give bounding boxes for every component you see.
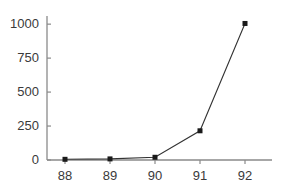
data-point-marker xyxy=(108,156,113,161)
data-point-marker xyxy=(198,128,203,133)
x-axis-tick-label: 91 xyxy=(180,169,220,182)
x-axis-tick-label: 88 xyxy=(45,169,85,182)
axes-group xyxy=(47,16,272,160)
data-point-marker xyxy=(243,21,248,26)
x-axis-tick-label: 90 xyxy=(135,169,175,182)
y-axis-tick-label: 0 xyxy=(0,153,39,166)
y-axis-tick-label: 250 xyxy=(0,119,39,132)
line-chart: 02505007501000 8889909192 xyxy=(0,0,284,186)
y-axis-tick-label: 500 xyxy=(0,85,39,98)
data-point-markers xyxy=(63,21,248,162)
y-axis-tick-label: 1000 xyxy=(0,17,39,30)
plot-area xyxy=(0,0,284,186)
data-series-line xyxy=(65,23,245,159)
x-axis-tick-label: 89 xyxy=(90,169,130,182)
data-point-marker xyxy=(63,157,68,162)
y-axis-tick-label: 750 xyxy=(0,51,39,64)
data-point-marker xyxy=(153,155,158,160)
x-axis-tick-label: 92 xyxy=(225,169,265,182)
